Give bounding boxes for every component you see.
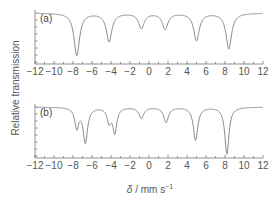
x-tick-label: −2 [124, 66, 136, 77]
x-tick-label: −4 [105, 160, 117, 171]
x-tick-label: −12 [27, 160, 44, 171]
x-tick-label: −2 [124, 160, 136, 171]
x-tick-label: −10 [46, 160, 63, 171]
y-axis-title: Relative transmission [10, 40, 21, 135]
x-tick-label: 4 [184, 160, 190, 171]
mossbauer-spectra-chart: Relative transmission −12−10−8−6−4−20246… [0, 0, 280, 201]
x-tick-label: −8 [67, 66, 79, 77]
x-tick-label: −10 [46, 66, 63, 77]
x-tick-label: −4 [105, 66, 117, 77]
x-tick-label: −6 [86, 160, 98, 171]
x-tick-label: 8 [222, 160, 228, 171]
panel-a-spectrum-line [37, 13, 263, 55]
x-tick-label: 6 [203, 66, 209, 77]
panel-a-x-tick-labels: −12−10−8−6−4−2024681012 [27, 66, 269, 77]
x-tick-label: −6 [86, 66, 98, 77]
x-tick-label: 12 [257, 66, 269, 77]
x-tick-label: 4 [184, 66, 190, 77]
x-axis-units: / mm s [132, 184, 165, 195]
x-tick-label: 0 [146, 66, 152, 77]
panel-b-x-tick-labels: −12−10−8−6−4−2024681012 [27, 160, 269, 171]
panel-a-label: (a) [40, 13, 52, 24]
x-tick-label: 12 [257, 160, 269, 171]
x-tick-label: 0 [146, 160, 152, 171]
panel-a: −12−10−8−6−4−2024681012 (a) [27, 10, 269, 77]
x-tick-label: −8 [67, 160, 79, 171]
panel-b-spectrum-line [37, 107, 263, 154]
x-tick-label: 2 [165, 66, 171, 77]
panel-b-label: (b) [40, 107, 52, 118]
x-tick-label: 10 [238, 66, 250, 77]
x-tick-label: 6 [203, 160, 209, 171]
x-axis-title: δ / mm s−1 [127, 183, 173, 195]
panel-a-x-ticks [35, 61, 263, 64]
x-tick-label: 10 [238, 160, 250, 171]
x-tick-label: 2 [165, 160, 171, 171]
x-axis-exponent: −1 [165, 183, 173, 190]
x-tick-label: −12 [27, 66, 44, 77]
x-tick-label: 8 [222, 66, 228, 77]
panel-b-x-ticks [35, 155, 263, 158]
panel-b: −12−10−8−6−4−2024681012 (b) [27, 104, 269, 171]
